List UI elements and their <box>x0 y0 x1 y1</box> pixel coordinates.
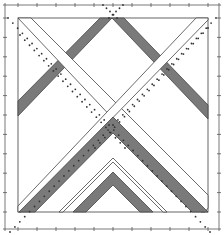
quilt-diagram <box>0 0 224 235</box>
diagram-svg <box>0 0 224 235</box>
